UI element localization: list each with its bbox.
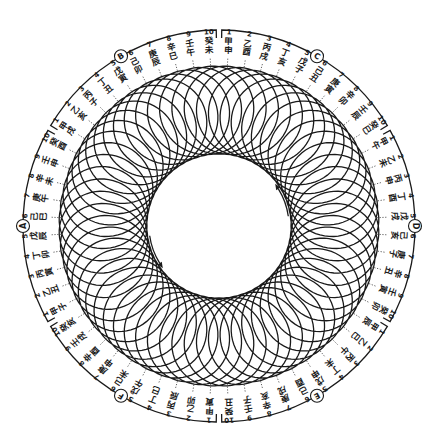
- cycle-label-character: 酉: [387, 193, 398, 203]
- cycle-label: 4丁酉: [387, 191, 415, 204]
- sexagenary-cycle-diagram: DCBAFE 1甲申2乙酉3丙戌4丁亥5戊子6己丑7庚寅8辛卯9壬辰10癸巳1甲…: [0, 0, 437, 447]
- sector-marker-c: C: [311, 50, 324, 63]
- cycle-label-character: 申: [383, 175, 395, 186]
- cycle-label: 9壬申: [33, 151, 61, 169]
- cycle-label: 10癸未: [203, 28, 215, 56]
- cycle-label-character: 酉: [241, 47, 251, 58]
- cycle-label: 5戊子: [292, 47, 313, 76]
- cycle-label: 1甲辰: [360, 315, 388, 337]
- cycle-label-number: 1: [206, 416, 211, 424]
- cycle-label-number: 6: [409, 234, 417, 239]
- cycle-label-character: 丑: [223, 397, 233, 407]
- cycle-label: 1甲申: [223, 28, 233, 55]
- cycle-label-character: 子: [241, 394, 251, 405]
- cycle-label: 7庚寅: [323, 69, 347, 96]
- cycle-label: 9壬寅: [377, 283, 405, 301]
- cycle-label: 2乙酉: [241, 30, 254, 58]
- cycle-label: 4丁卯: [23, 248, 51, 261]
- cycle-label: 8辛卯: [337, 83, 362, 108]
- cycle-label-character: 亥: [390, 230, 400, 240]
- cycle-label-character: 辰: [38, 230, 48, 240]
- cycle-label: 4丁丑: [91, 69, 115, 96]
- sector-marker-d: D: [409, 220, 422, 233]
- cycle-label: 7庚申: [91, 356, 115, 383]
- sector-marker-e: E: [311, 389, 324, 402]
- cycle-label: 2乙巳: [349, 330, 376, 354]
- cycle-label-character: 亥: [276, 55, 288, 68]
- cycle-label: 3丙子: [76, 83, 101, 108]
- cycle-label: 5戊午: [125, 376, 146, 405]
- leader-line: [88, 120, 97, 127]
- cycle-label: 3丙午: [337, 344, 362, 369]
- cycle-label: 1甲午: [369, 132, 397, 152]
- cycle-label: 7庚戌: [276, 384, 294, 412]
- cycle-label: 8辛巳: [163, 34, 179, 62]
- cycle-label-character: 丑: [48, 283, 61, 295]
- cycle-label-character: 寅: [377, 283, 390, 295]
- cycle-label: 9壬午: [184, 30, 197, 58]
- cycle-label: 9壬辰: [349, 98, 376, 122]
- sector-marker-b: B: [115, 50, 128, 63]
- cycle-label-character: 申: [223, 45, 233, 55]
- marker-letter: D: [411, 223, 420, 230]
- cycle-label-character: 寅: [43, 266, 55, 277]
- cycle-label: 9壬子: [241, 394, 254, 422]
- cycle-label: 3丙申: [383, 170, 411, 186]
- cycle-label-character: 未: [377, 156, 390, 169]
- cycle-label-character: 卯: [40, 248, 51, 258]
- cycle-label-character: 子: [387, 248, 398, 258]
- cycle-label-number: 5: [21, 233, 29, 238]
- cycle-label-number: 1: [227, 28, 232, 36]
- cycle-label: 2乙丑: [33, 283, 61, 301]
- cycle-label-character: 巳: [150, 384, 162, 397]
- cycle-label-character: 戌: [259, 50, 270, 62]
- cycle-label: 10癸卯: [369, 299, 398, 321]
- cycle-label: 10癸酉: [40, 132, 69, 154]
- cycle-label: 1甲戌: [50, 114, 78, 136]
- cycle-label-character: 午: [186, 47, 196, 58]
- cycle-label: 2乙卯: [184, 394, 197, 422]
- cycle-label-character: 未: [204, 45, 215, 56]
- cycle-label-character: 辰: [168, 390, 179, 402]
- cycle-label: 7庚子: [387, 248, 415, 261]
- cycle-label-character: 未: [43, 175, 55, 187]
- label-leader-lines: [50, 57, 388, 395]
- cycle-label: 2乙亥: [62, 98, 89, 122]
- cycle-label-character: 寅: [205, 397, 215, 407]
- cycle-label-character: 戌: [390, 212, 400, 222]
- cycle-label-character: 午: [40, 193, 51, 203]
- cycle-label-character: 卯: [186, 394, 196, 405]
- cycle-label-character: 丑: [383, 266, 395, 277]
- cycle-label: 8辛亥: [259, 390, 275, 418]
- cycle-label: 4丁巳: [144, 384, 162, 412]
- cycle-label: 6己酉: [293, 376, 313, 404]
- cycle-label: 7庚午: [23, 191, 51, 204]
- cycle-label: 9壬戌: [62, 330, 89, 354]
- direction-arrows: [150, 184, 289, 268]
- cycle-label: 8辛酉: [76, 344, 101, 369]
- cycle-label-character: 巳: [38, 212, 48, 222]
- cycle-label: 10癸丑: [223, 396, 235, 424]
- marker-letter: A: [19, 222, 28, 229]
- cycle-label: 3丙寅: [27, 266, 55, 282]
- cycle-label-number: 5: [409, 213, 417, 218]
- cycle-labels: 1甲申2乙酉3丙戌4丁亥5戊子6己丑7庚寅8辛卯9壬辰10癸巳1甲午2乙未3丙申…: [21, 28, 417, 424]
- cycle-label: 1甲子: [41, 300, 69, 320]
- cycle-label: 6己卯: [125, 48, 145, 76]
- cycle-label-character: 巳: [168, 50, 179, 62]
- leader-line: [113, 95, 120, 104]
- cycle-label-character: 辰: [150, 55, 162, 68]
- cycle-label: 7庚辰: [144, 40, 162, 68]
- sector-marker-f: F: [115, 389, 128, 402]
- cycle-label-number: 6: [21, 213, 29, 218]
- cycle-label-character: 戌: [276, 384, 288, 397]
- cycle-label: 4丁未: [323, 355, 348, 382]
- cycle-label: 4丁亥: [276, 40, 294, 68]
- cycle-label: 2乙未: [377, 150, 406, 169]
- cycle-label-character: 申: [48, 157, 61, 169]
- cycle-label-character: 亥: [259, 390, 270, 402]
- sector-marker-a: A: [17, 220, 30, 233]
- cycle-label: 1甲寅: [204, 397, 214, 424]
